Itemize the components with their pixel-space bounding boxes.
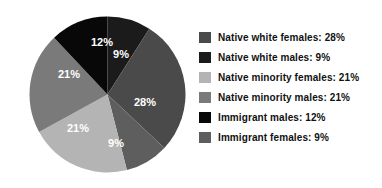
legend-item-immigrant-females[interactable]: Immigrant females: 9%	[199, 127, 379, 147]
legend-item-label: Native minority females: 21%	[218, 72, 359, 83]
legend-item-label: Native white females: 28%	[218, 32, 345, 43]
slice-label-immigrant-females: 9%	[108, 137, 124, 149]
pie-chart-area: 9% 28% 9% 21% 21% 12%	[29, 16, 186, 173]
legend-item-native-minority-females[interactable]: Native minority females: 21%	[199, 67, 379, 87]
legend-swatch-icon	[199, 32, 211, 43]
legend-item-native-minority-males[interactable]: Native minority males: 21%	[199, 87, 379, 107]
slice-label-native-minority-females: 21%	[67, 122, 89, 134]
legend-item-native-white-females[interactable]: Native white females: 28%	[199, 27, 379, 47]
chart-legend: Native white females: 28% Native white m…	[199, 27, 379, 147]
pie-chart-figure: 9% 28% 9% 21% 21% 12% Native white femal…	[0, 0, 382, 188]
slice-label-native-white-males: 9%	[113, 48, 129, 60]
legend-item-label: Native minority males: 21%	[218, 92, 350, 103]
legend-swatch-icon	[199, 92, 211, 103]
legend-swatch-icon	[199, 132, 211, 143]
legend-item-immigrant-males[interactable]: Immigrant males: 12%	[199, 107, 379, 127]
slice-label-immigrant-males: 12%	[91, 36, 113, 48]
legend-item-native-white-males[interactable]: Native white males: 9%	[199, 47, 379, 67]
slice-label-native-white-females: 28%	[134, 96, 156, 108]
legend-item-label: Immigrant males: 12%	[218, 112, 326, 123]
legend-item-label: Native white males: 9%	[218, 52, 330, 63]
slice-label-native-minority-males: 21%	[58, 68, 80, 80]
pie-chart-svg: 9% 28% 9% 21% 21% 12%	[29, 16, 186, 173]
legend-swatch-icon	[199, 52, 211, 63]
legend-swatch-icon	[199, 72, 211, 83]
legend-item-label: Immigrant females: 9%	[218, 132, 329, 143]
legend-swatch-icon	[199, 112, 211, 123]
